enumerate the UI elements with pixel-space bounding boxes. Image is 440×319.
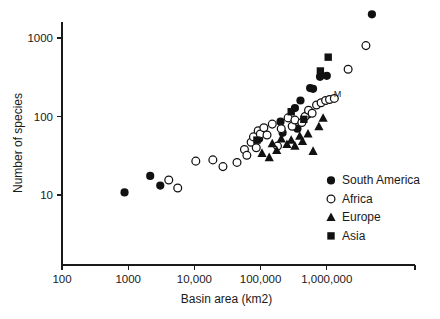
data-point bbox=[344, 65, 352, 73]
plot-canvas: 101001000100100010,000100,0001,000,000Ba… bbox=[0, 0, 440, 319]
data-point bbox=[209, 156, 217, 164]
legend-label: Europe bbox=[342, 210, 381, 224]
x-tick-label-10,000: 10,000 bbox=[177, 273, 212, 285]
y-tick-label-1000: 1000 bbox=[27, 32, 53, 44]
data-point bbox=[253, 136, 260, 143]
data-point bbox=[263, 131, 271, 139]
legend-label: Asia bbox=[342, 229, 366, 243]
x-tick-label-1,000,000: 1,000,000 bbox=[301, 273, 352, 285]
series-africa bbox=[165, 42, 370, 192]
data-point bbox=[325, 53, 332, 60]
data-point bbox=[308, 146, 317, 155]
legend-label: South America bbox=[342, 173, 420, 187]
x-tick-label-100: 100 bbox=[52, 273, 71, 285]
x-tick-label-100,000: 100,000 bbox=[240, 273, 282, 285]
data-point bbox=[303, 129, 312, 138]
annotation-M: M bbox=[334, 89, 342, 99]
data-point bbox=[233, 159, 241, 167]
legend-item-africa[interactable]: Africa bbox=[327, 192, 373, 206]
y-tick-label-100: 100 bbox=[34, 111, 53, 123]
data-point bbox=[156, 181, 164, 189]
x-axis-title: Basin area (km2) bbox=[181, 292, 272, 306]
data-point bbox=[260, 124, 268, 132]
data-point bbox=[146, 172, 154, 180]
legend-marker-filled-square bbox=[327, 232, 334, 239]
scatter-plot-figure: 101001000100100010,000100,0001,000,000Ba… bbox=[0, 0, 440, 319]
data-point bbox=[288, 108, 295, 115]
y-tick-label-10: 10 bbox=[40, 189, 53, 201]
legend-marker-filled-triangle bbox=[326, 212, 335, 221]
data-point bbox=[314, 122, 323, 131]
data-point bbox=[219, 163, 227, 171]
legend-item-europe[interactable]: Europe bbox=[326, 210, 381, 224]
data-point bbox=[300, 116, 307, 123]
legend: South AmericaAfricaEuropeAsia bbox=[326, 173, 420, 243]
legend-item-asia[interactable]: Asia bbox=[327, 229, 365, 243]
data-point bbox=[192, 157, 200, 165]
data-point bbox=[277, 125, 285, 133]
data-point bbox=[174, 184, 182, 192]
legend-marker-open-circle bbox=[327, 195, 335, 203]
data-point bbox=[268, 120, 276, 128]
data-point bbox=[165, 176, 173, 184]
data-point bbox=[243, 151, 251, 159]
y-axis-title: Number of species bbox=[11, 93, 25, 193]
data-point bbox=[308, 109, 316, 117]
legend-marker-filled-circle bbox=[327, 176, 335, 184]
annotations: M bbox=[334, 89, 342, 99]
data-point bbox=[296, 96, 304, 104]
data-point bbox=[368, 10, 376, 18]
data-point bbox=[319, 113, 328, 122]
data-point bbox=[309, 85, 317, 93]
data-point bbox=[252, 144, 260, 152]
legend-item-south-america[interactable]: South America bbox=[327, 173, 420, 187]
series-south-america bbox=[120, 10, 376, 196]
data-point bbox=[120, 188, 128, 196]
data-point bbox=[317, 67, 324, 74]
data-points bbox=[120, 10, 376, 196]
x-tick-label-1000: 1000 bbox=[115, 273, 141, 285]
data-point bbox=[362, 42, 370, 50]
legend-label: Africa bbox=[342, 192, 373, 206]
